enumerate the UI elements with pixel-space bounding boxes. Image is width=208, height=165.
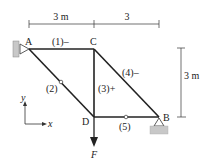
member-2-marker-icon — [59, 80, 63, 84]
node-a-label: A — [25, 36, 33, 47]
node-b-label: B — [163, 112, 170, 123]
member-5-marker-icon — [124, 115, 128, 119]
right-dimension: 3 m — [177, 48, 206, 117]
dim-label-height: 3 m — [184, 70, 200, 81]
dim-label-ac: 3 m — [53, 11, 69, 22]
axes-icon — [23, 101, 47, 126]
load-arrow-icon — [90, 117, 98, 147]
truss-diagram: 3 m 3 3 m (1)– (2) (3)+ (4)– (5) A C D B… — [0, 0, 208, 165]
member-4-label: (4)– — [122, 67, 140, 79]
member-2-label: (2) — [46, 83, 58, 95]
load-label: F — [90, 149, 98, 160]
axis-x-label: x — [47, 118, 53, 129]
dim-label-cb: 3 — [125, 11, 130, 22]
member-1-label: (1)– — [52, 36, 70, 48]
member-5-label: (5) — [119, 121, 131, 133]
top-dimension: 3 m 3 — [29, 11, 159, 28]
axis-y-label: y — [20, 92, 26, 103]
node-d-label: D — [82, 116, 89, 127]
node-c-label: C — [90, 36, 97, 47]
member-3-label: (3)+ — [98, 83, 116, 95]
